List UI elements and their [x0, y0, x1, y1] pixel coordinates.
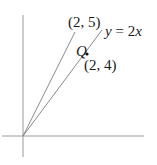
- label-point-2-4: (2, 4): [84, 58, 117, 73]
- label-point-2-5: (2, 5): [68, 15, 101, 30]
- label-line-equation: y = 2x: [105, 24, 142, 39]
- line-y-equals-2x: [23, 30, 102, 136]
- label-eq-rest: = 2: [112, 23, 135, 39]
- label-eq-x: x: [135, 23, 142, 39]
- label-eq-y: y: [105, 23, 112, 39]
- ray-to-2-5: [23, 32, 75, 136]
